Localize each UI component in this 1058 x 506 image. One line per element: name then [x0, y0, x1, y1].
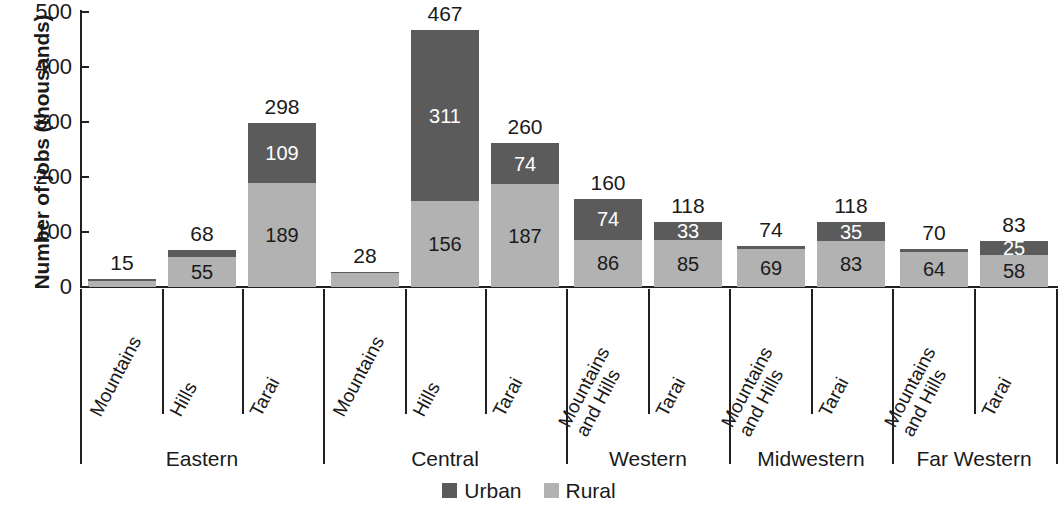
- x-axis-category-label: Mountains: [86, 333, 145, 420]
- category-separator: [405, 289, 407, 414]
- legend-label-rural: Rural: [566, 480, 616, 501]
- legend-swatch-urban: [442, 483, 457, 498]
- y-axis-tick-400: 400: [20, 56, 72, 78]
- region-label-midwestern: Midwestern: [729, 448, 893, 469]
- bar-value-rural: 86: [574, 253, 642, 273]
- bar-total-label: 160: [574, 172, 642, 193]
- category-separator: [811, 289, 813, 414]
- region-label-far-western: Far Western: [892, 448, 1056, 469]
- bar-value-rural: 55: [168, 262, 236, 282]
- bar-central-tarai: 74187260: [491, 143, 559, 287]
- bar-value-urban: 25: [980, 238, 1048, 258]
- category-separator: [648, 289, 650, 414]
- x-axis-category-label: Tarai: [246, 374, 283, 420]
- bar-value-urban: 311: [411, 106, 479, 126]
- bar-value-rural: 83: [817, 254, 885, 274]
- x-axis-category-label: Tarai: [652, 374, 689, 420]
- bar-total-label: 118: [817, 195, 885, 216]
- y-axis-tick-200: 200: [20, 166, 72, 188]
- y-axis-tick-mark: [80, 286, 89, 288]
- y-axis-tick-0: 0: [20, 276, 72, 298]
- bar-total-label: 83: [980, 214, 1048, 235]
- category-separator: [162, 289, 164, 414]
- bar-central-mountains: 28: [331, 272, 399, 287]
- category-separator: [974, 289, 976, 414]
- bar-western-mountains-and-hills: 7486160: [574, 199, 642, 287]
- y-axis-tick-mark: [80, 121, 89, 123]
- bar-total-label: 118: [654, 195, 722, 216]
- bar-value-rural: 189: [248, 225, 316, 245]
- bar-western-tarai: 3385118: [654, 222, 722, 287]
- stacked-bar-chart: Number of jobs (thousands) 5004003002001…: [0, 0, 1058, 506]
- bar-value-rural: 58: [980, 261, 1048, 281]
- bar-far-western-mountains-and-hills: 6470: [900, 249, 968, 288]
- category-separator: [485, 289, 487, 414]
- bar-value-rural: 64: [900, 259, 968, 279]
- region-separator: [892, 289, 894, 464]
- bar-segment-urban: [331, 272, 399, 274]
- bar-eastern-tarai: 109189298: [248, 123, 316, 287]
- bar-segment-rural: [88, 281, 156, 287]
- bar-total-label: 260: [491, 116, 559, 137]
- x-axis-category-label: Hills: [409, 379, 443, 420]
- x-axis-category-label: Tarai: [978, 374, 1015, 420]
- legend-label-urban: Urban: [464, 480, 521, 501]
- bar-segment-urban: [168, 250, 236, 257]
- region-separator: [80, 289, 82, 464]
- bar-value-rural: 69: [737, 258, 805, 278]
- bar-midwestern-tarai: 3583118: [817, 222, 885, 287]
- y-axis-tick-300: 300: [20, 111, 72, 133]
- bar-total-label: 298: [248, 96, 316, 117]
- y-axis-tick-500: 500: [20, 1, 72, 23]
- bar-value-rural: 85: [654, 254, 722, 274]
- y-axis-line: [80, 10, 82, 287]
- bar-value-rural: 187: [491, 226, 559, 246]
- y-axis-tick-labels: 5004003002001000: [12, 0, 72, 506]
- bar-value-urban: 74: [491, 154, 559, 174]
- x-axis-category-label: Mountains: [329, 333, 388, 420]
- bar-total-label: 15: [88, 252, 156, 273]
- bar-far-western-tarai: 255883: [980, 241, 1048, 287]
- legend-item-rural: Rural: [544, 480, 616, 501]
- chart-legend: Urban Rural: [0, 480, 1058, 501]
- y-axis-tick-mark: [80, 176, 89, 178]
- legend-item-urban: Urban: [442, 480, 521, 501]
- bar-total-label: 68: [168, 223, 236, 244]
- bar-value-urban: 109: [248, 143, 316, 163]
- bar-segment-urban: [900, 249, 968, 252]
- bar-segment-urban: [88, 279, 156, 281]
- bar-segment-urban: [737, 246, 805, 249]
- region-separator: [323, 289, 325, 464]
- region-label-eastern: Eastern: [80, 448, 324, 469]
- bar-total-label: 70: [900, 222, 968, 243]
- x-axis-category-label: Hills: [166, 379, 200, 420]
- bar-total-label: 28: [331, 245, 399, 266]
- bar-eastern-mountains: 15: [88, 279, 156, 287]
- bar-total-label: 74: [737, 219, 805, 240]
- region-label-western: Western: [566, 448, 730, 469]
- region-separator: [566, 289, 568, 464]
- bar-value-rural: 156: [411, 234, 479, 254]
- bar-central-hills: 311156467: [411, 30, 479, 287]
- region-separator: [729, 289, 731, 464]
- bar-value-urban: 35: [817, 222, 885, 242]
- bar-eastern-hills: 5568: [168, 250, 236, 287]
- category-separator: [242, 289, 244, 414]
- bar-value-urban: 33: [654, 221, 722, 241]
- x-axis-category-label: Tarai: [489, 374, 526, 420]
- y-axis-tick-mark: [80, 231, 89, 233]
- bar-midwestern-mountains-and-hills: 6974: [737, 246, 805, 287]
- y-axis-tick-mark: [80, 66, 89, 68]
- bar-value-urban: 74: [574, 209, 642, 229]
- region-label-central: Central: [323, 448, 567, 469]
- x-axis-category-label: Tarai: [815, 374, 852, 420]
- legend-swatch-rural: [544, 483, 559, 498]
- bar-total-label: 467: [411, 3, 479, 24]
- bar-segment-rural: [331, 273, 399, 287]
- y-axis-tick-mark: [80, 11, 89, 13]
- y-axis-tick-100: 100: [20, 221, 72, 243]
